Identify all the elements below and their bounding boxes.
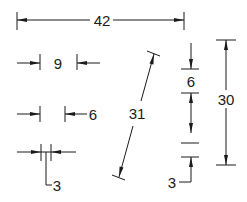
arrowhead-down-icon <box>189 59 193 69</box>
dimension-label-6: 6 <box>187 73 195 90</box>
arrowhead-top-icon <box>150 54 155 65</box>
arrowhead-right-icon <box>30 61 40 65</box>
dimension-label-31: 31 <box>129 105 146 122</box>
arrowhead-up-icon <box>224 40 228 50</box>
arrowhead-bottom-icon <box>119 166 124 177</box>
arrowhead-left-icon <box>51 150 61 154</box>
dimension-3-vertical: 3 <box>168 143 199 191</box>
dimension-label-3: 3 <box>168 174 176 191</box>
dimension-6-vertical: 6 <box>181 43 199 133</box>
arrowhead-up-icon <box>189 157 193 167</box>
dimension-label-3: 3 <box>53 177 61 194</box>
arrowhead-up-icon <box>189 93 193 103</box>
dimension-label-30: 30 <box>218 91 235 108</box>
extension-tick-bottom <box>112 175 125 180</box>
arrowhead-right-icon <box>30 112 40 116</box>
arrowhead-left-icon <box>77 61 87 65</box>
dimension-6-horizontal: 6 <box>17 106 97 123</box>
arrowhead-right-icon <box>174 18 184 22</box>
dimension-42: 42 <box>17 12 184 30</box>
arrowhead-left-icon <box>65 112 75 116</box>
dimension-9: 9 <box>17 54 100 72</box>
dimension-label-6: 6 <box>89 106 97 123</box>
dimension-3-horizontal: 3 <box>17 144 76 194</box>
arrowhead-down-lower-icon <box>189 123 193 133</box>
dimension-31: 31 <box>112 51 160 180</box>
dimension-30: 30 <box>216 40 236 165</box>
leader-line <box>179 157 191 182</box>
dimension-diagram: 42 9 6 3 31 <box>0 0 247 202</box>
arrowhead-left-icon <box>17 18 27 22</box>
dimension-label-9: 9 <box>54 55 62 72</box>
arrowhead-right-icon <box>31 150 41 154</box>
arrowhead-down-icon <box>224 155 228 165</box>
dimension-label-42: 42 <box>94 12 111 29</box>
